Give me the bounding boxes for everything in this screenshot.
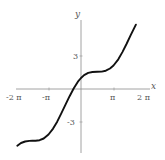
y-axis-label: y xyxy=(74,9,81,19)
y-tick-label-neg3: -3 xyxy=(67,118,75,127)
y-tick-label-3: 3 xyxy=(73,52,78,61)
x-tick-label-pi: π xyxy=(110,93,115,102)
x-axis-label: x xyxy=(151,81,156,91)
function-plot: x y -2 π -π π 2 π 3 -3 xyxy=(0,0,165,160)
x-tick-label-neg-2pi: -2 π xyxy=(6,93,22,102)
x-tick-label-neg-pi: -π xyxy=(42,93,50,102)
function-curve xyxy=(17,25,136,146)
x-tick-label-2pi: 2 π xyxy=(137,93,150,102)
